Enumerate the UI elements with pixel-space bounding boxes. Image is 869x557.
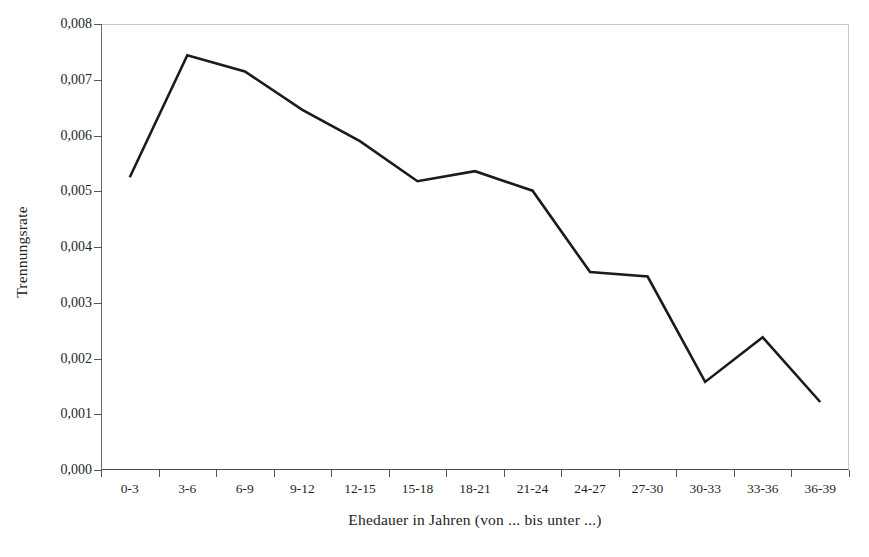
x-axis-tick-mark	[274, 470, 275, 477]
y-axis-tick-label: 0,008	[16, 16, 92, 32]
y-axis-tick-label: 0,004	[16, 239, 92, 255]
y-axis-tick-labels: 0,0000,0010,0020,0030,0040,0050,0060,007…	[8, 0, 92, 557]
x-axis-tick-label: 36-39	[782, 481, 858, 497]
x-axis-tick-mark	[389, 470, 390, 477]
y-axis-tick-label: 0,001	[16, 406, 92, 422]
y-axis-tick-label: 0,002	[16, 351, 92, 367]
x-axis-tick-mark	[446, 470, 447, 477]
x-axis-tick-mark	[101, 470, 102, 477]
x-axis-tick-mark	[331, 470, 332, 477]
y-axis-tick-label: 0,006	[16, 128, 92, 144]
y-axis-tick-mark	[94, 80, 102, 81]
x-axis-tick-mark	[159, 470, 160, 477]
y-axis-tick-mark	[94, 414, 102, 415]
y-axis-tick-mark	[94, 24, 102, 25]
x-axis-tick-mark	[734, 470, 735, 477]
y-axis-tick-label: 0,000	[16, 462, 92, 478]
y-axis-tick-mark	[94, 191, 102, 192]
x-axis-tick-mark	[849, 470, 850, 477]
x-axis-tick-mark	[676, 470, 677, 477]
y-axis-tick-label: 0,003	[16, 295, 92, 311]
x-axis-tick-mark	[504, 470, 505, 477]
y-axis-tick-mark	[94, 359, 102, 360]
y-axis-tick-mark	[94, 247, 102, 248]
y-axis-tick-mark	[94, 303, 102, 304]
chart-figure: Trennungsrate 0,0000,0010,0020,0030,0040…	[0, 0, 869, 557]
x-axis-tick-mark	[561, 470, 562, 477]
x-axis-title: Ehedauer in Jahren (von ... bis unter ..…	[101, 511, 849, 529]
x-axis-tick-mark	[216, 470, 217, 477]
x-axis-tick-mark	[619, 470, 620, 477]
y-axis-tick-label: 0,007	[16, 72, 92, 88]
y-axis-tick-mark	[94, 136, 102, 137]
x-axis-tick-mark	[791, 470, 792, 477]
y-axis-tick-label: 0,005	[16, 183, 92, 199]
plot-area	[101, 24, 849, 470]
